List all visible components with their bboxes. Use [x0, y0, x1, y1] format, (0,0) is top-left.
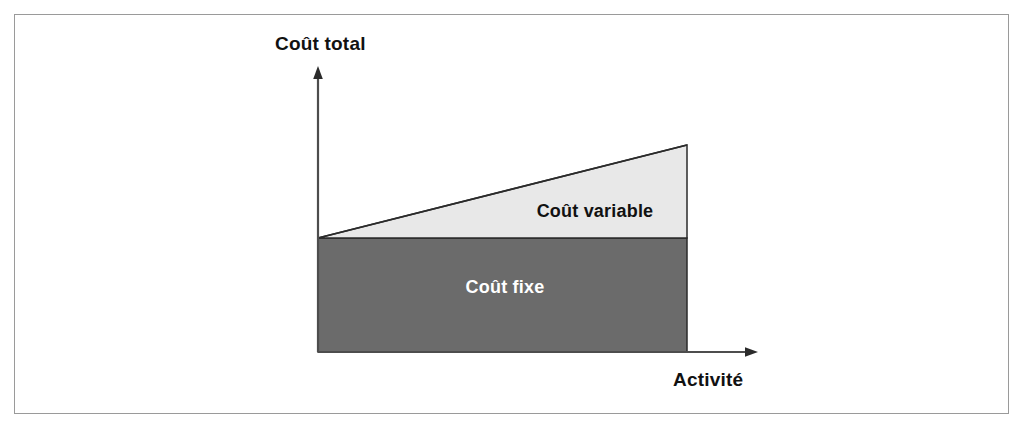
fixed-cost-label: Coût fixe	[405, 277, 605, 298]
y-axis-label: Coût total	[275, 33, 366, 55]
cost-behaviour-figure: Coût total Activité Coût variable Coût f…	[0, 0, 1024, 429]
x-axis-arrow-icon	[745, 347, 758, 357]
variable-cost-label: Coût variable	[495, 201, 695, 222]
y-axis-arrow-icon	[313, 66, 323, 79]
x-axis-label: Activité	[673, 369, 743, 391]
